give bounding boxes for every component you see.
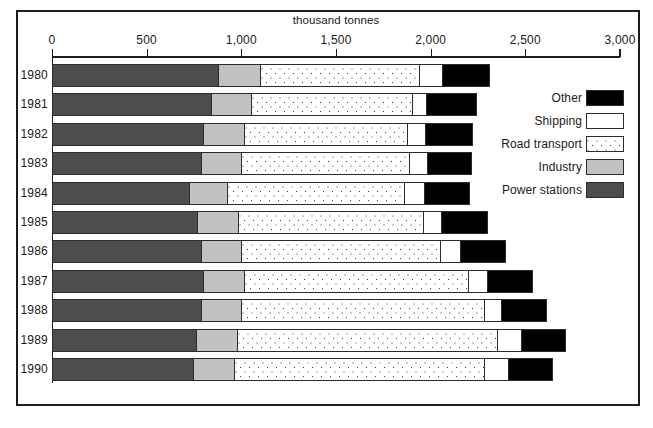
bar-segment-road xyxy=(239,211,424,234)
legend-swatch-road xyxy=(586,136,624,152)
bar-segment-shipping xyxy=(413,93,427,116)
legend-label-power: Power stations xyxy=(502,183,582,197)
bar-segment-shipping xyxy=(485,358,510,381)
bar-segment-industry xyxy=(190,182,228,205)
x-tick-label-1000: 1,000 xyxy=(226,33,257,47)
bar-segment-power xyxy=(52,93,212,116)
x-tick-label-500: 500 xyxy=(136,33,157,47)
bar-segment-industry xyxy=(204,270,245,293)
year-label-1983: 1983 xyxy=(18,156,48,170)
legend-item-power: Power stations xyxy=(498,180,626,202)
x-axis-ticks: 05001,0001,5002,0002,5003,000 xyxy=(52,33,620,57)
bar-segment-road xyxy=(261,64,420,87)
bar-segment-shipping xyxy=(405,182,425,205)
bar-segment-road xyxy=(228,182,405,205)
bar-segment-industry xyxy=(219,64,262,87)
x-tick-label-2000: 2,000 xyxy=(415,33,446,47)
bar-segment-other xyxy=(428,152,472,175)
legend-item-road: Road transport xyxy=(498,134,626,156)
chart-legend: OtherShippingRoad transportIndustryPower… xyxy=(498,88,626,203)
bar-segment-other xyxy=(427,93,477,116)
bar-segment-road xyxy=(242,240,441,263)
bar-segment-industry xyxy=(204,123,245,146)
bar-segment-industry xyxy=(202,152,243,175)
bar-segment-road xyxy=(242,152,410,175)
legend-item-industry: Industry xyxy=(498,157,626,179)
year-label-1987: 1987 xyxy=(18,274,48,288)
x-tick-label-2500: 2,500 xyxy=(510,33,541,47)
bar-segment-other xyxy=(425,182,470,205)
axis-title: thousand tonnes xyxy=(52,14,620,26)
year-label-1985: 1985 xyxy=(18,215,48,229)
bar-segment-power xyxy=(52,182,190,205)
x-tick-label-3000: 3,000 xyxy=(604,33,635,47)
year-label-1984: 1984 xyxy=(18,186,48,200)
bar-segment-road xyxy=(252,93,413,116)
bar-segment-shipping xyxy=(498,329,522,352)
year-label-1990: 1990 xyxy=(18,362,48,376)
year-label-1982: 1982 xyxy=(18,127,48,141)
x-tick-label-0: 0 xyxy=(49,33,56,47)
legend-swatch-shipping xyxy=(586,113,624,129)
x-tick-mark-3000 xyxy=(620,49,621,57)
bar-segment-power xyxy=(52,64,219,87)
year-label-1981: 1981 xyxy=(18,97,48,111)
year-label-1989: 1989 xyxy=(18,333,48,347)
x-axis-cap-right xyxy=(619,49,620,58)
bar-segment-power xyxy=(52,358,194,381)
bar-segment-power xyxy=(52,299,202,322)
bar-segment-other xyxy=(509,358,553,381)
x-axis-line xyxy=(52,56,620,58)
bar-segment-industry xyxy=(197,329,238,352)
bar-segment-shipping xyxy=(441,240,461,263)
bar-segment-road xyxy=(235,358,485,381)
bar-segment-power xyxy=(52,240,202,263)
bar-segment-road xyxy=(245,270,468,293)
bar-segment-shipping xyxy=(408,123,426,146)
bar-segment-shipping xyxy=(410,152,428,175)
bar-segment-shipping xyxy=(420,64,443,87)
legend-item-shipping: Shipping xyxy=(498,111,626,133)
bar-segment-road xyxy=(245,123,408,146)
bar-segment-shipping xyxy=(469,270,489,293)
legend-swatch-other xyxy=(586,90,624,106)
legend-item-other: Other xyxy=(498,88,626,110)
chart-figure: thousand tonnes 05001,0001,5002,0002,500… xyxy=(0,0,653,428)
year-label-1988: 1988 xyxy=(18,303,48,317)
legend-label-other: Other xyxy=(551,91,582,105)
legend-label-industry: Industry xyxy=(539,160,583,174)
bar-segment-industry xyxy=(212,93,252,116)
legend-swatch-power xyxy=(586,182,624,198)
x-tick-label-1500: 1,500 xyxy=(320,33,351,47)
legend-swatch-industry xyxy=(586,159,624,175)
bar-segment-other xyxy=(522,329,566,352)
bar-segment-industry xyxy=(202,299,243,322)
bar-segment-other xyxy=(488,270,532,293)
bar-segment-power xyxy=(52,329,197,352)
bar-segment-power xyxy=(52,270,204,293)
bar-segment-industry xyxy=(194,358,235,381)
bar-segment-road xyxy=(238,329,498,352)
bar-segment-other xyxy=(502,299,547,322)
year-label-1986: 1986 xyxy=(18,244,48,258)
bar-segment-shipping xyxy=(424,211,442,234)
bar-segment-power xyxy=(52,123,204,146)
year-label-1980: 1980 xyxy=(18,68,48,82)
legend-label-road: Road transport xyxy=(501,137,582,151)
bar-segment-industry xyxy=(198,211,240,234)
bar-segment-other xyxy=(426,123,473,146)
bar-segment-power xyxy=(52,152,202,175)
bar-segment-other xyxy=(461,240,506,263)
bar-segment-power xyxy=(52,211,198,234)
bar-segment-other xyxy=(443,64,490,87)
legend-label-shipping: Shipping xyxy=(534,114,582,128)
bar-segment-industry xyxy=(202,240,243,263)
bar-segment-other xyxy=(442,211,488,234)
bar-segment-road xyxy=(242,299,484,322)
bar-segment-shipping xyxy=(485,299,502,322)
